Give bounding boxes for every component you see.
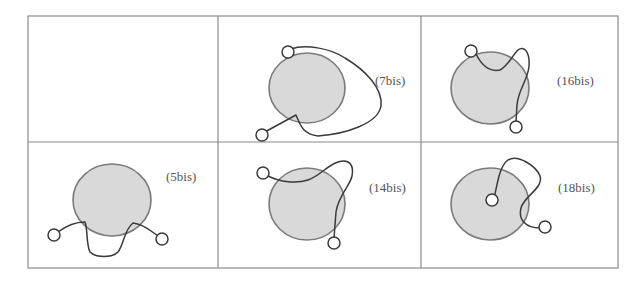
cell-5bis: (5bis)	[48, 164, 196, 257]
cell-16bis: (16bis)	[451, 45, 594, 133]
cell-label: (18bis)	[558, 180, 595, 195]
cell-7bis: (7bis)	[256, 46, 405, 141]
cell-14bis: (14bis)	[257, 161, 406, 249]
shaded-region	[269, 53, 345, 123]
endpoint-circle	[282, 46, 294, 58]
endpoint-circle	[256, 129, 268, 141]
endpoint-circle	[156, 233, 168, 245]
cell-label: (5bis)	[166, 169, 196, 184]
endpoint-circle	[328, 237, 340, 249]
shaded-region	[269, 168, 345, 240]
endpoint-circle	[48, 229, 60, 241]
cell-label: (14bis)	[369, 180, 406, 195]
cell-18bis: (18bis)	[451, 158, 595, 240]
endpoint-circle	[486, 194, 498, 206]
cell-label: (16bis)	[557, 73, 594, 88]
endpoint-circle	[510, 121, 522, 133]
endpoint-circle	[539, 221, 551, 233]
configuration-table-diagram: (7bis) (16bis) (5bis) (14bis) (18bis)	[0, 0, 643, 283]
endpoint-circle	[257, 167, 269, 179]
cell-label: (7bis)	[375, 73, 405, 88]
shaded-region	[451, 52, 529, 124]
endpoint-circle	[465, 45, 477, 57]
